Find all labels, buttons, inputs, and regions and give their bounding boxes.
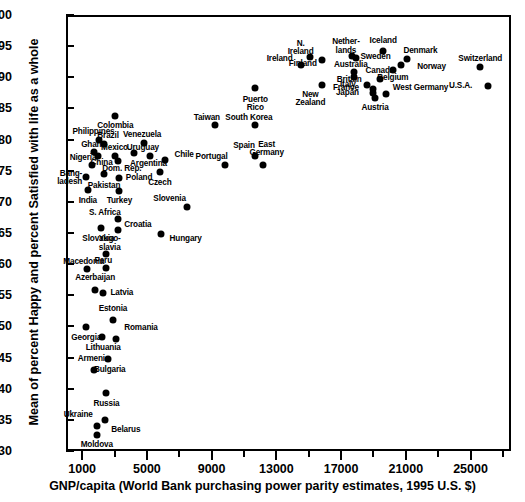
x-minor-tick-mark xyxy=(178,451,180,457)
data-point[interactable] xyxy=(318,56,325,63)
y-tick-label: 50 xyxy=(0,319,12,333)
data-point[interactable] xyxy=(252,85,259,92)
data-point-label: South Korea xyxy=(225,114,272,123)
data-point-label: Romania xyxy=(124,324,158,333)
data-point-label: Latvia xyxy=(111,289,134,298)
data-point[interactable] xyxy=(260,162,267,169)
data-point[interactable] xyxy=(351,69,358,76)
data-point[interactable] xyxy=(109,317,116,324)
y-tick-mark xyxy=(66,232,74,234)
data-point-label: Argentina xyxy=(130,160,167,169)
data-point[interactable] xyxy=(363,81,370,88)
y-tick-label: 40 xyxy=(0,382,12,396)
data-point[interactable] xyxy=(383,91,390,98)
data-point-label: Venezuela xyxy=(123,131,161,140)
data-point-label: Turkey xyxy=(107,197,132,206)
y-tick-mark xyxy=(66,294,74,296)
x-tick-mark xyxy=(340,451,342,460)
y-tick-label: 75 xyxy=(0,164,12,178)
y-tick-label: 100 xyxy=(0,8,12,22)
y-tick-label: 85 xyxy=(0,101,12,115)
data-point[interactable] xyxy=(93,432,100,439)
data-point-label: Estonia xyxy=(99,305,128,314)
data-point-label: Australia xyxy=(334,61,368,70)
data-point-label: Finland xyxy=(289,60,317,69)
data-point-label: Peru xyxy=(94,257,112,266)
data-point-label: Hungary xyxy=(170,235,202,244)
data-point[interactable] xyxy=(83,173,90,180)
data-point-label: Moldova xyxy=(81,441,113,450)
data-point-label: Sweden xyxy=(361,53,391,62)
y-tick-mark xyxy=(66,201,74,203)
data-point[interactable] xyxy=(112,112,119,119)
data-point[interactable] xyxy=(101,416,108,423)
data-point-label: Chile xyxy=(174,151,193,160)
data-point-label: Slovenia xyxy=(153,195,185,204)
x-tick-label: 5000 xyxy=(133,462,161,476)
data-point-label: Belgium xyxy=(377,74,408,83)
data-point[interactable] xyxy=(97,225,104,232)
x-minor-tick-mark xyxy=(502,451,504,457)
data-point[interactable] xyxy=(404,55,411,62)
data-point-label: N.Ireland xyxy=(288,40,314,57)
data-point[interactable] xyxy=(90,149,97,156)
data-point[interactable] xyxy=(96,136,103,143)
x-tick-label: 17000 xyxy=(324,462,359,476)
y-tick-mark xyxy=(66,76,74,78)
data-point-label: Georgia xyxy=(71,334,101,343)
x-axis-title: GNP/capita (World Bank purchasing power … xyxy=(0,479,525,493)
y-tick-label: 65 xyxy=(0,226,12,240)
data-point[interactable] xyxy=(93,423,100,430)
y-tick-mark xyxy=(66,357,74,359)
x-tick-label: 21000 xyxy=(388,462,423,476)
data-point[interactable] xyxy=(221,162,228,169)
x-tick-mark xyxy=(405,451,407,460)
data-point[interactable] xyxy=(83,324,90,331)
y-tick-label: 70 xyxy=(0,195,12,209)
data-point[interactable] xyxy=(477,64,484,71)
x-minor-tick-mark xyxy=(308,451,310,457)
y-tick-label: 55 xyxy=(0,288,12,302)
data-point-label: Norway xyxy=(417,63,446,72)
data-point-label: S. Africa xyxy=(89,209,121,218)
data-point[interactable] xyxy=(114,226,121,233)
data-point-label: Bang-ladesh xyxy=(57,170,82,187)
data-point-label: NewZealand xyxy=(295,91,325,108)
data-point[interactable] xyxy=(111,153,118,160)
x-tick-mark xyxy=(211,451,213,460)
data-point[interactable] xyxy=(369,86,376,93)
data-point-label: U.S.A. xyxy=(449,82,472,91)
data-point-label: Belarus xyxy=(111,426,140,435)
y-tick-label: 45 xyxy=(0,351,12,365)
x-tick-label: 9000 xyxy=(198,462,226,476)
data-point[interactable] xyxy=(140,139,147,146)
data-point[interactable] xyxy=(184,203,191,210)
y-tick-label: 35 xyxy=(0,413,12,427)
x-minor-tick-mark xyxy=(437,451,439,457)
data-point[interactable] xyxy=(156,168,163,175)
y-axis-title: Mean of percent Happy and percent Satisf… xyxy=(27,22,41,442)
data-point-label: Taiwan xyxy=(194,114,220,123)
data-point[interactable] xyxy=(116,174,123,181)
data-point[interactable] xyxy=(158,231,165,238)
data-point-label: Denmark xyxy=(403,47,437,56)
data-point[interactable] xyxy=(103,390,110,397)
data-point[interactable] xyxy=(252,152,259,159)
data-point-label: Azerbaijan xyxy=(75,274,115,283)
data-point[interactable] xyxy=(380,47,387,54)
data-point[interactable] xyxy=(105,355,112,362)
data-point-label: PuertoRico xyxy=(243,96,268,113)
y-tick-label: 80 xyxy=(0,133,12,147)
x-minor-tick-mark xyxy=(114,451,116,457)
data-point[interactable] xyxy=(318,81,325,88)
data-point-label: Croatia xyxy=(124,221,151,230)
x-tick-label: 25000 xyxy=(453,462,488,476)
data-point[interactable] xyxy=(113,335,120,342)
data-point[interactable] xyxy=(92,286,99,293)
y-tick-mark xyxy=(66,388,74,390)
data-point-label: Iceland xyxy=(370,37,397,46)
data-point[interactable] xyxy=(100,289,107,296)
data-point-label: India xyxy=(79,197,97,206)
data-point[interactable] xyxy=(397,62,404,69)
data-point[interactable] xyxy=(485,83,492,90)
